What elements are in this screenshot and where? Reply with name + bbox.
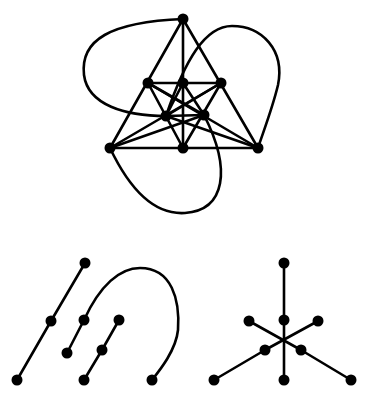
diagram-canvas [0, 0, 378, 405]
graph-edge [301, 350, 351, 380]
graph-node [161, 111, 172, 122]
graph-node [62, 348, 73, 359]
graph-node [209, 375, 220, 386]
graph-node [79, 375, 90, 386]
graph-node [105, 143, 116, 154]
graph-node [97, 345, 108, 356]
graph-node [279, 375, 290, 386]
graph-curved-edge [84, 268, 178, 380]
graph-node [260, 345, 271, 356]
graph-node [313, 316, 324, 327]
graph-node [279, 315, 290, 326]
graph-node [178, 78, 189, 89]
graph-edge [67, 320, 84, 353]
graph-node [346, 375, 357, 386]
bottom-right-graph [209, 258, 357, 386]
graph-node [12, 375, 23, 386]
graph-edge [17, 321, 51, 380]
graph-node [178, 143, 189, 154]
graph-figure [0, 0, 378, 405]
graph-edge [51, 263, 85, 321]
graph-node [296, 345, 307, 356]
top-graph [84, 14, 280, 214]
graph-node [80, 258, 91, 269]
graph-node [143, 78, 154, 89]
bottom-left-graph [12, 258, 179, 386]
graph-node [147, 375, 158, 386]
graph-node [178, 14, 189, 25]
graph-node [253, 143, 264, 154]
graph-curved-edge [84, 19, 183, 116]
graph-node [279, 258, 290, 269]
graph-node [244, 316, 255, 327]
graph-node [114, 315, 125, 326]
graph-node [46, 316, 57, 327]
graph-node [79, 315, 90, 326]
graph-edge [214, 350, 265, 380]
graph-node [216, 78, 227, 89]
graph-node [199, 110, 210, 121]
